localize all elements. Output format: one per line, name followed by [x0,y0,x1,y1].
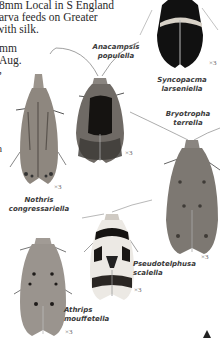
species-name-athrips: Athrips mouffetella [64,306,114,324]
scale-label-bryotropha: ×3 [201,253,208,261]
moth-illustration-fragment [200,330,214,338]
species-label: larseniella [150,85,214,94]
species-name-pseudotelphusa: Pseudotelphusa scalella [133,260,193,278]
scale-label-pseudotelphusa: ×3 [134,286,141,294]
moth-illustration-pseudotelphusa [82,200,152,305]
body-text-fragment: n [0,143,2,155]
genus-label: Pseudotelphusa [133,260,193,269]
body-text-line-3: with silk. [0,24,39,36]
species-label: scalella [133,269,193,278]
moth-illustration-nothris [8,72,68,187]
body-text-line-1: 8mm Local in S England [0,0,114,12]
body-text-line-2: arva feeds on Greater [0,12,98,24]
genus-label: Syncopacma [150,76,214,85]
species-name-syncopacma: Syncopacma larseniella [150,76,214,94]
species-name-nothris: Nothris congressariella [8,196,70,214]
body-text-line-4: mm [0,43,17,55]
genus-label: Athrips [64,306,114,315]
species-label: congressariella [8,205,70,214]
scale-label-nothris: ×3 [54,183,61,191]
body-text-line-5: Aug. [0,55,22,67]
scale-label-syncopacma: ×3 [209,59,216,67]
genus-label: Nothris [8,196,70,205]
body-text-line-6: , [0,64,2,76]
species-label: mouffetella [64,315,114,324]
scale-label-athrips: ×3 [65,328,72,336]
